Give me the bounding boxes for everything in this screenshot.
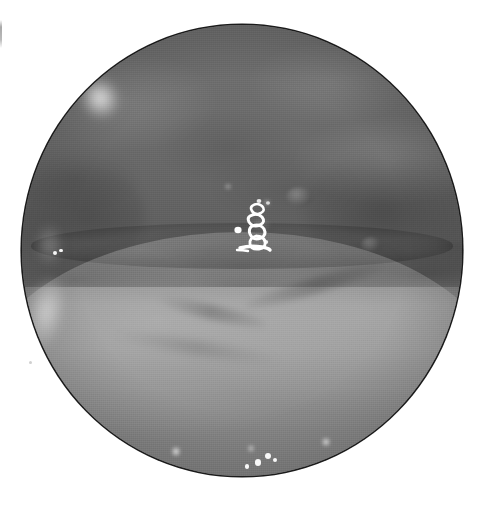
edge-scan-line-artifact: [0, 20, 2, 48]
image-canvas: Grayscale endoscopic photograph showing …: [0, 0, 479, 507]
film-grain-layer: [22, 25, 462, 476]
endoscope-field-of-view: [22, 25, 462, 476]
